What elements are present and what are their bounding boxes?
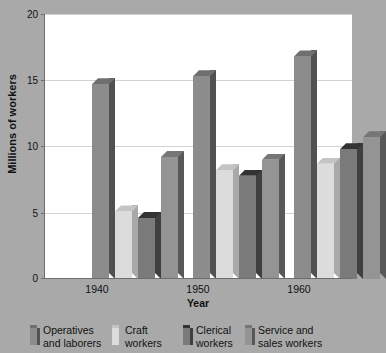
- legend-swatch-side: [252, 328, 255, 345]
- bar-side: [178, 151, 184, 273]
- bar-face: [115, 211, 132, 279]
- legend-item-label: Operatives and laborers: [43, 324, 101, 349]
- legend-item-label: Craft workers: [125, 324, 162, 349]
- bar-1940-series-0: [92, 84, 109, 279]
- legend-swatch-icon: [30, 325, 37, 345]
- x-tick-label-1940: 1940: [72, 283, 122, 295]
- plot-area: [44, 14, 352, 279]
- legend-swatch-icon: [183, 325, 190, 345]
- bar-1940-series-2: [138, 218, 155, 279]
- bar-face: [161, 157, 178, 279]
- bar-face: [340, 149, 357, 279]
- bar-face: [363, 137, 380, 279]
- bar-side-base: [380, 273, 386, 279]
- legend-item-1[interactable]: Craft workers: [112, 324, 162, 349]
- bar-1960-series-0: [294, 56, 311, 279]
- legend-swatch-top: [30, 325, 37, 328]
- y-axis-title: Millions of workers: [6, 49, 18, 199]
- legend-swatch-top: [112, 325, 119, 328]
- bar-face: [138, 218, 155, 279]
- bar-face: [216, 170, 233, 279]
- bar-1940-series-1: [115, 211, 132, 279]
- legend-swatch-icon: [245, 325, 252, 345]
- bar-1960-series-3: [363, 137, 380, 279]
- bar-1950-series-1: [216, 170, 233, 279]
- y-tick-label-0: 0: [8, 273, 38, 284]
- legend-swatch-side: [37, 328, 40, 345]
- bar-face: [317, 164, 334, 279]
- legend-swatch-face: [30, 328, 37, 345]
- legend-swatch-icon: [112, 325, 119, 345]
- legend-item-2[interactable]: Clerical workers: [183, 324, 233, 349]
- bar-face: [239, 176, 256, 279]
- chart-legend: Operatives and laborersCraft workersCler…: [0, 322, 366, 353]
- x-axis-title: Year: [44, 297, 352, 309]
- legend-item-label: Clerical workers: [196, 324, 233, 349]
- bar-1940-series-3: [161, 157, 178, 279]
- bar-1950-series-0: [193, 76, 210, 279]
- bar-face: [92, 84, 109, 279]
- bar-face: [193, 76, 210, 279]
- bar-1960-series-2: [340, 149, 357, 279]
- gridline-20: [44, 14, 352, 15]
- x-axis-line: [44, 278, 352, 279]
- legend-item-0[interactable]: Operatives and laborers: [30, 324, 101, 349]
- legend-swatch-side: [119, 328, 122, 345]
- y-tick-mark-5: [41, 213, 45, 214]
- bar-1950-series-3: [262, 160, 279, 279]
- y-tick-mark-20: [41, 14, 45, 15]
- x-tick-label-1950: 1950: [173, 283, 223, 295]
- bar-side: [380, 131, 386, 273]
- legend-swatch-top: [245, 325, 252, 328]
- y-tick-mark-10: [41, 146, 45, 147]
- y-tick-label-5: 5: [8, 208, 38, 219]
- y-tick-mark-15: [41, 80, 45, 81]
- y-tick-label-20: 20: [8, 9, 38, 20]
- legend-swatch-top: [183, 325, 190, 328]
- legend-swatch-face: [245, 328, 252, 345]
- legend-swatch-face: [183, 328, 190, 345]
- bar-1960-series-1: [317, 164, 334, 279]
- legend-item-3[interactable]: Service and sales workers: [245, 324, 322, 349]
- bar-face: [262, 160, 279, 279]
- legend-swatch-side: [190, 328, 193, 345]
- y-tick-mark-0: [41, 278, 45, 279]
- legend-item-label: Service and sales workers: [258, 324, 322, 349]
- x-tick-label-1960: 1960: [274, 283, 324, 295]
- bar-side: [279, 154, 285, 273]
- bar-face: [294, 56, 311, 279]
- bar-1950-series-2: [239, 176, 256, 279]
- legend-swatch-face: [112, 328, 119, 345]
